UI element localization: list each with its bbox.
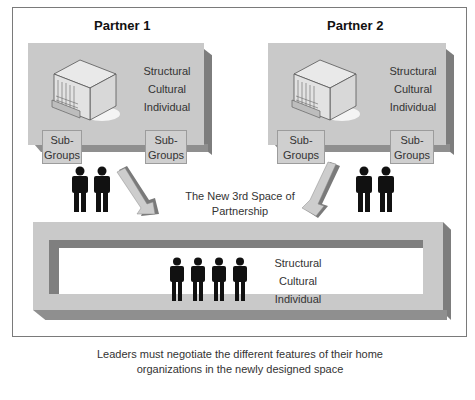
caption-line: organizations in the newly designed spac…: [40, 362, 440, 377]
building-icon: [50, 56, 125, 126]
feature-individual: Individual: [378, 98, 448, 116]
feature-cultural: Cultural: [378, 80, 448, 98]
partner-2-features: Structural Cultural Individual: [378, 62, 448, 116]
subgroup-line: Sub-: [146, 133, 186, 148]
subgroup-line: Sub-: [43, 133, 81, 148]
partner-2-subgroup-right: Sub- Groups: [390, 130, 434, 164]
feature-individual: Individual: [263, 290, 333, 308]
feature-cultural: Cultural: [132, 80, 202, 98]
feature-structural: Structural: [263, 254, 333, 272]
partner-2-title: Partner 2: [327, 18, 383, 33]
building-icon: [290, 56, 365, 126]
label-line: Partnership: [160, 204, 320, 219]
arrow-left-icon: [115, 164, 165, 218]
feature-individual: Individual: [132, 98, 202, 116]
partner-1-subgroup-left: Sub- Groups: [42, 130, 82, 164]
subgroup-line: Sub-: [278, 133, 324, 148]
feature-cultural: Cultural: [263, 272, 333, 290]
third-space-label: The New 3rd Space of Partnership: [160, 189, 320, 219]
subgroup-line: Groups: [391, 148, 433, 163]
partner-1-title: Partner 1: [94, 18, 150, 33]
label-line: The New 3rd Space of: [160, 189, 320, 204]
diagram-caption: Leaders must negotiate the different fea…: [40, 347, 440, 377]
subgroup-line: Groups: [43, 148, 81, 163]
partner-1-features: Structural Cultural Individual: [132, 62, 202, 116]
partner-1-subgroup-right: Sub- Groups: [145, 130, 187, 164]
partner-2-subgroup-left: Sub- Groups: [277, 130, 325, 164]
subgroup-line: Groups: [146, 148, 186, 163]
feature-structural: Structural: [132, 62, 202, 80]
third-space-people-icon: [167, 257, 251, 301]
caption-line: Leaders must negotiate the different fea…: [40, 347, 440, 362]
third-space-features: Structural Cultural Individual: [263, 254, 333, 308]
subgroup-line: Sub-: [391, 133, 433, 148]
partner-1-people-icon: [70, 166, 114, 212]
feature-structural: Structural: [378, 62, 448, 80]
partner-2-people-icon: [354, 166, 398, 212]
